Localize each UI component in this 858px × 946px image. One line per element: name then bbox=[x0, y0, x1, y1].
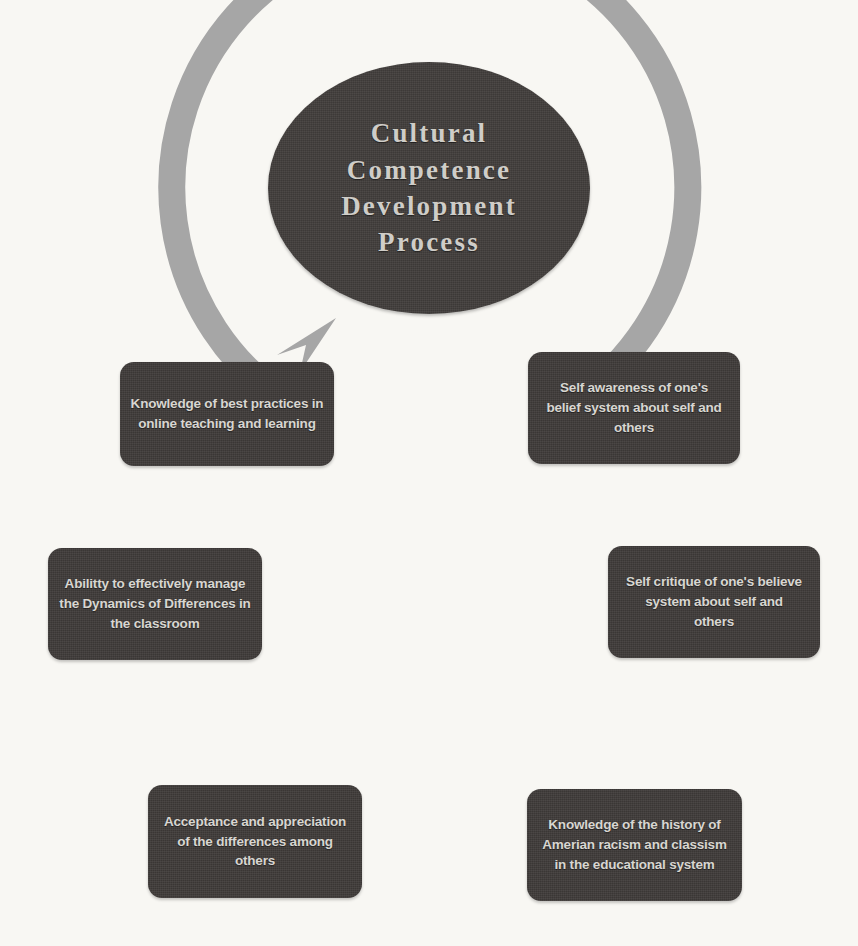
node-self-critique-label: Self critique of one's believe system ab… bbox=[614, 572, 814, 632]
node-history-racism[interactable]: Knowledge of the history of Amerian raci… bbox=[527, 789, 742, 901]
node-dynamics[interactable]: Abilitty to effectively manage the Dynam… bbox=[48, 548, 262, 660]
node-history-racism-label: Knowledge of the history of Amerian raci… bbox=[527, 815, 742, 875]
cultural-competence-cycle-diagram: Cultural Competence Development Process … bbox=[0, 0, 858, 946]
center-oval: Cultural Competence Development Process bbox=[268, 62, 590, 314]
node-best-practices-label: Knowledge of best practices in online te… bbox=[120, 394, 334, 434]
center-oval-label: Cultural Competence Development Process bbox=[304, 115, 554, 261]
node-best-practices[interactable]: Knowledge of best practices in online te… bbox=[120, 362, 334, 466]
node-self-awareness[interactable]: Self awareness of one's belief system ab… bbox=[528, 352, 740, 464]
node-dynamics-label: Abilitty to effectively manage the Dynam… bbox=[48, 574, 262, 634]
node-acceptance-label: Acceptance and appreciation of the diffe… bbox=[148, 812, 362, 872]
node-self-awareness-label: Self awareness of one's belief system ab… bbox=[534, 378, 734, 438]
node-self-critique[interactable]: Self critique of one's believe system ab… bbox=[608, 546, 820, 658]
node-acceptance[interactable]: Acceptance and appreciation of the diffe… bbox=[148, 785, 362, 898]
